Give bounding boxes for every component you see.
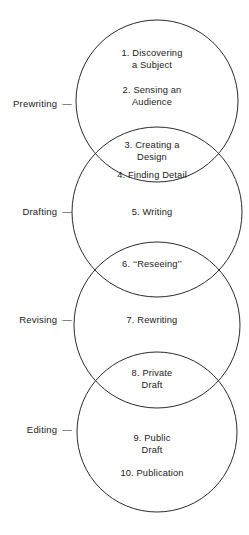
step-9-line-2: Draft xyxy=(86,445,218,457)
stage-label-revising: Revising— xyxy=(0,314,72,325)
stage-label-revising-dash: — xyxy=(62,314,72,325)
step-item-8: 8. Private Draft xyxy=(86,368,218,391)
step-item-6: 6. ‘‘Reseeing’’ xyxy=(86,259,218,271)
step-5-line-1: 5. Writing xyxy=(86,207,218,219)
stage-label-drafting-dash: — xyxy=(62,206,72,217)
step-10-line-1: 10. Publication xyxy=(86,468,218,480)
stage-label-prewriting-text: Prewriting xyxy=(13,98,57,109)
step-3-line-2: Design xyxy=(86,152,218,164)
step-item-3: 3. Creating a Design xyxy=(86,140,218,163)
step-item-2: 2. Sensing an Audience xyxy=(86,85,218,108)
stage-label-editing-dash: — xyxy=(62,424,72,435)
step-6-line-1: 6. ‘‘Reseeing’’ xyxy=(86,259,218,271)
step-2-line-2: Audience xyxy=(86,97,218,109)
writing-process-diagram: Prewriting— Drafting— Revising— Editing—… xyxy=(0,0,249,535)
step-2-line-1: 2. Sensing an xyxy=(86,85,218,97)
stage-label-revising-text: Revising xyxy=(19,314,57,325)
step-item-9: 9. Public Draft xyxy=(86,433,218,456)
stage-label-drafting-text: Drafting xyxy=(22,206,57,217)
step-item-4: 4. Finding Detail xyxy=(86,170,218,182)
step-item-7: 7. Rewriting xyxy=(86,315,218,327)
step-3-line-1: 3. Creating a xyxy=(86,140,218,152)
step-item-5: 5. Writing xyxy=(86,207,218,219)
step-1-line-1: 1. Discovering xyxy=(86,48,218,60)
step-item-10: 10. Publication xyxy=(86,468,218,480)
step-item-1: 1. Discovering a Subject xyxy=(86,48,218,71)
step-4-line-1: 4. Finding Detail xyxy=(86,170,218,182)
step-8-line-2: Draft xyxy=(86,380,218,392)
stage-label-prewriting-dash: — xyxy=(62,98,72,109)
step-9-line-1: 9. Public xyxy=(86,433,218,445)
step-1-line-2: a Subject xyxy=(86,60,218,72)
step-7-line-1: 7. Rewriting xyxy=(86,315,218,327)
step-8-line-1: 8. Private xyxy=(86,368,218,380)
stage-label-prewriting: Prewriting— xyxy=(0,98,72,109)
stage-label-editing: Editing— xyxy=(0,424,72,435)
stage-label-drafting: Drafting— xyxy=(0,206,72,217)
stage-label-editing-text: Editing xyxy=(27,424,57,435)
